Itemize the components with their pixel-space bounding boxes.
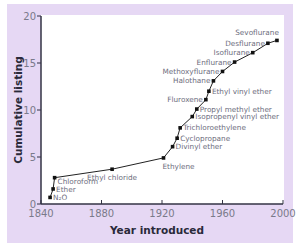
x-tick-label: 1880 xyxy=(89,208,114,219)
point-label: Methoxyflurane xyxy=(163,67,220,76)
x-tick-label: 2000 xyxy=(270,208,295,219)
y-tick-label: 5 xyxy=(30,152,36,163)
point-label: Sevoflurane xyxy=(235,28,279,37)
data-point-marker xyxy=(266,41,270,45)
data-point-marker xyxy=(207,89,211,93)
point-label: Ethyl chloride xyxy=(87,173,138,182)
data-point-marker xyxy=(162,156,166,160)
point-label: Trichloroethylene xyxy=(182,123,246,132)
data-point-marker xyxy=(204,98,208,102)
data-point-marker xyxy=(221,70,225,74)
data-point-marker xyxy=(212,79,216,83)
point-label: Isoflurane xyxy=(214,48,251,57)
data-point-marker xyxy=(53,176,57,180)
point-label: Cyclopropane xyxy=(180,134,231,143)
data-point-marker xyxy=(233,60,237,64)
point-label: Ether xyxy=(56,185,76,194)
data-point-marker xyxy=(251,51,255,55)
x-tick-label: 1920 xyxy=(149,208,174,219)
data-point-marker xyxy=(275,39,279,43)
point-label: Divinyl ether xyxy=(176,142,223,151)
point-label: Enflurane xyxy=(197,58,233,67)
y-tick-label: 15 xyxy=(23,58,36,69)
point-label: Fluroxene xyxy=(167,95,203,104)
y-tick-label: 10 xyxy=(23,105,36,116)
data-point-marker xyxy=(51,187,55,191)
x-axis-title: Year introduced xyxy=(109,224,204,236)
data-point-marker xyxy=(175,136,179,140)
data-point-marker xyxy=(110,167,114,171)
x-tick-label: 1840 xyxy=(28,208,53,219)
data-point-marker xyxy=(48,196,52,200)
line-chart: 0510152018401880192019602000 N₂OEtherChl… xyxy=(0,0,298,247)
point-label: Desflurane xyxy=(225,39,265,48)
data-point-marker xyxy=(171,145,175,149)
point-label: N₂O xyxy=(53,193,67,202)
point-label: Propyl methyl ether xyxy=(200,105,272,114)
point-labels: N₂OEtherChloroformEthyl chlorideEthylene… xyxy=(53,28,279,202)
data-point-marker xyxy=(190,115,194,119)
y-tick-label: 20 xyxy=(23,11,36,22)
data-point-marker xyxy=(178,126,182,130)
point-label: Ethyl vinyl ether xyxy=(212,87,272,96)
data-point-marker xyxy=(195,107,199,111)
y-axis-title: Cumulative listing xyxy=(12,56,24,164)
point-label: Halothane xyxy=(173,76,211,85)
point-label: Ethylene xyxy=(163,162,196,171)
x-tick-label: 1960 xyxy=(210,208,235,219)
